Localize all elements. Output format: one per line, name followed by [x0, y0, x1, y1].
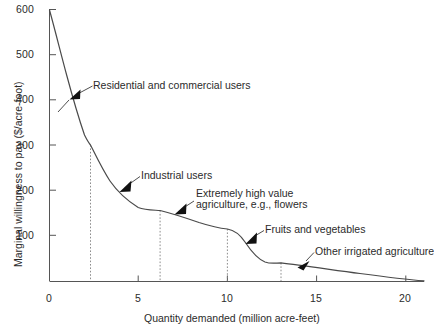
x-tick-label-0: 0	[46, 292, 52, 304]
arrowhead-fruits	[246, 233, 258, 245]
y-axis-ticks	[50, 10, 57, 236]
annotation-other: Other irrigated agriculture	[315, 246, 434, 258]
demand-curve-path	[50, 10, 425, 281]
y-tick-label-500: 500	[16, 48, 34, 60]
leader-residential-tail	[58, 100, 69, 112]
x-tick-label-5: 5	[135, 292, 141, 304]
x-tick-label-15: 15	[310, 292, 322, 304]
x-tick-label-20: 20	[399, 292, 411, 304]
annotation-high-value-line2: agriculture, e.g., flowers	[196, 199, 307, 211]
y-axis-title: Marginal willingness to pay ($/acre-foot…	[12, 81, 24, 267]
leader-other	[306, 253, 314, 262]
annotation-residential: Residential and commercial users	[93, 80, 251, 92]
y-tick-label-600: 600	[16, 3, 34, 15]
x-axis-ticks	[138, 276, 406, 282]
annotation-fruits: Fruits and vegetables	[265, 224, 365, 236]
x-axis-title: Quantity demanded (million acre-feet)	[144, 312, 320, 324]
arrowhead-industrial	[120, 181, 132, 193]
annotation-industrial: Industrial users	[141, 170, 212, 182]
arrowhead-high-value	[175, 204, 187, 215]
x-tick-label-10: 10	[221, 292, 233, 304]
